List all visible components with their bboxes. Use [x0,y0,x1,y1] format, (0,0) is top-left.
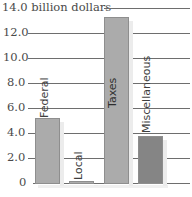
category-label: Local [73,151,84,180]
y-tick-label: 12.0 [3,27,29,39]
bar-federal [35,118,60,184]
y-tick-label: 2.0 [7,152,25,164]
bar-local [69,181,94,184]
y-tick-label: 8.0 [7,77,25,89]
category-label: Federal [39,77,50,118]
category-label: Miscellaneous [141,56,152,133]
y-tick-label: 14.0 billion dollars [2,2,111,14]
category-label: Taxes [107,78,118,108]
y-tick-label: 6.0 [7,102,25,114]
y-tick-label: 0 [19,177,26,189]
gridline [104,8,190,9]
baseline-shadow [38,185,168,188]
bar-shadow [94,185,98,186]
bar-miscellaneous [138,136,163,184]
bar-shadow [60,122,64,186]
bar-chart: 02.04.06.08.010.012.014.0 billion dollar… [0,0,192,197]
bar-shadow [163,140,167,186]
y-tick-label: 4.0 [7,127,25,139]
bar-shadow [129,21,133,186]
y-tick-label: 10.0 [3,52,29,64]
